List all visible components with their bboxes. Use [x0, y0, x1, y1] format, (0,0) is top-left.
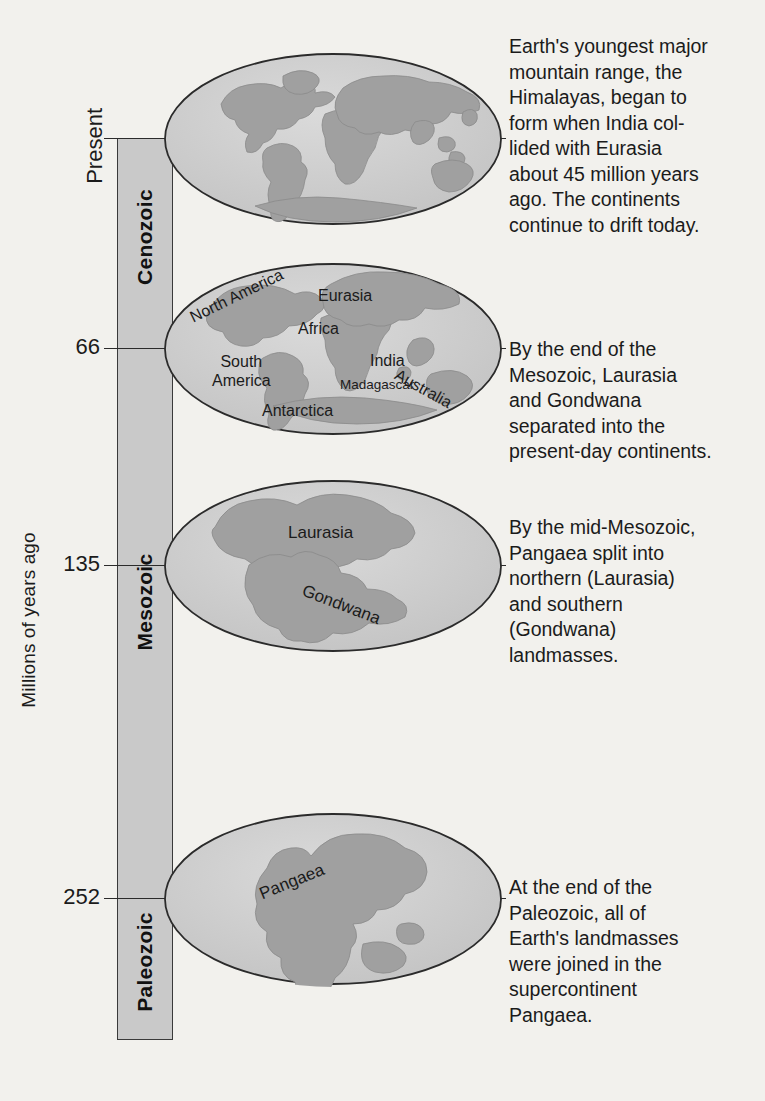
- tick-label-66: 66: [25, 334, 100, 360]
- blurb-66ma: By the end of the Mesozoic, Laurasia and…: [509, 337, 759, 465]
- globe-label-antarctica: Antarctica: [262, 402, 333, 420]
- tick-label-252: 252: [25, 884, 100, 910]
- era-label-paleozoic: Paleozoic: [133, 832, 157, 1092]
- figure-canvas: Millions of years ago Cenozoic Mesozoic …: [0, 0, 765, 1101]
- blurb-252ma: At the end of the Paleozoic, all of Eart…: [509, 875, 759, 1028]
- tick-label-present: Present: [82, 108, 108, 238]
- blurb-135ma: By the mid-Mesozoic, Pangaea split into …: [509, 515, 759, 668]
- globe-label-eurasia: Eurasia: [318, 287, 372, 305]
- axis-title: Millions of years ago: [18, 470, 40, 770]
- globe-present: [163, 52, 503, 227]
- globe-label-laurasia: Laurasia: [288, 523, 353, 543]
- globe-label-south-america: South America: [212, 352, 271, 390]
- blurb-present: Earth's youngest major mountain range, t…: [509, 34, 759, 238]
- globe-label-africa: Africa: [298, 320, 339, 338]
- globe-135ma: [163, 479, 503, 654]
- era-label-cenozoic: Cenozoic: [133, 107, 157, 367]
- globe-252ma: [163, 812, 503, 987]
- tick-label-135: 135: [25, 551, 100, 577]
- era-label-mesozoic: Mesozoic: [133, 472, 157, 732]
